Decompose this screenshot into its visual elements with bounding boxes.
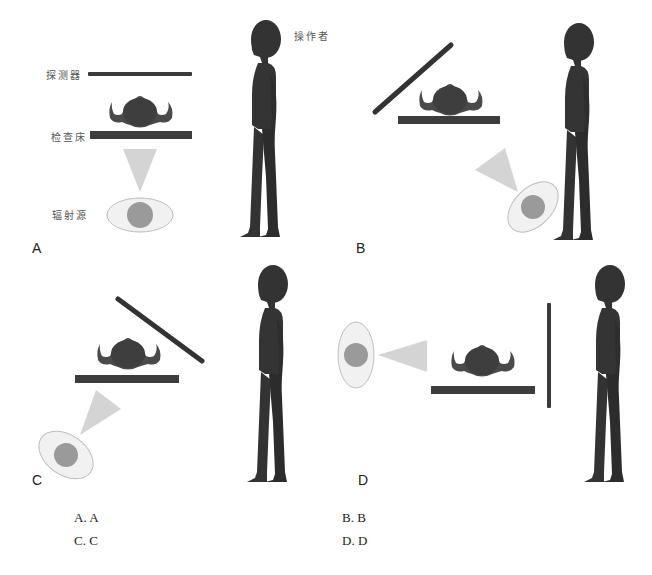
panel-d — [338, 265, 625, 482]
option-c[interactable]: C. C — [74, 533, 98, 549]
detector-label: 探测器 — [46, 67, 82, 82]
detector — [88, 72, 192, 76]
xray-beam — [475, 148, 518, 192]
exam-table — [398, 116, 500, 124]
operator-figure — [247, 265, 288, 482]
patient-icon — [451, 345, 514, 377]
panel-b — [375, 23, 594, 242]
radiation-source — [338, 322, 374, 388]
operator-figure — [240, 20, 281, 237]
source-label: 辐射源 — [52, 207, 88, 222]
option-d[interactable]: D. D — [342, 533, 367, 549]
panel-a — [88, 20, 281, 237]
option-b[interactable]: B. B — [342, 510, 366, 526]
xray-beam — [123, 149, 157, 192]
table-label: 检查床 — [51, 129, 87, 144]
operator-figure — [553, 23, 594, 240]
panel-letter-a: A — [32, 240, 41, 256]
patient-icon — [109, 96, 172, 128]
radiography-setup-diagram — [0, 0, 652, 500]
panel-letter-c: C — [32, 472, 42, 488]
xray-beam — [80, 390, 121, 435]
panel-letter-d: D — [358, 472, 368, 488]
exam-table — [75, 375, 179, 383]
xray-beam — [378, 340, 427, 372]
patient-icon — [419, 84, 482, 116]
radiation-source — [107, 198, 173, 232]
exam-table — [431, 386, 535, 394]
panel-letter-b: B — [356, 240, 365, 256]
detector — [547, 303, 551, 408]
exam-table — [90, 131, 192, 139]
option-a[interactable]: A. A — [74, 510, 99, 526]
panel-c — [30, 265, 288, 489]
patient-icon — [97, 338, 160, 370]
operator-figure — [584, 265, 625, 482]
operator-label: 操作者 — [294, 28, 330, 43]
